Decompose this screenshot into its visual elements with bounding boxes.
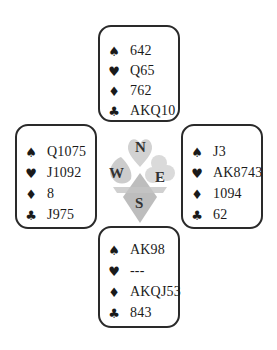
east-diamonds-row: ♦ 1094 [191,184,242,204]
west-diamonds: 8 [47,186,54,202]
club-icon: ♣ [108,104,120,119]
spade-icon: ♠ [191,145,203,160]
east-diamonds: 1094 [213,186,242,202]
north-hearts-row: ♥ Q65 [108,61,155,81]
north-hand: ♠ 642 ♥ Q65 ♦ 762 ♣ AKQ10 [98,25,180,122]
south-diamonds-row: ♦ AKQJ53 [108,282,181,302]
diamond-icon: ♦ [191,187,203,202]
compass-north-label: N [135,139,146,156]
compass-logo: N W E S [103,133,177,225]
diamond-icon: ♦ [25,187,37,202]
north-spades: 642 [130,43,152,59]
west-clubs-row: ♣ J975 [25,205,74,225]
spade-icon: ♠ [108,44,120,59]
west-hearts: J1092 [47,165,81,181]
west-hand: ♠ Q1075 ♥ J1092 ♦ 8 ♣ J975 [15,124,97,229]
south-spades: AK98 [130,242,165,258]
south-clubs-row: ♣ 843 [108,303,152,323]
east-clubs-row: ♣ 62 [191,205,227,225]
north-hearts: Q65 [130,63,155,79]
north-diamonds-row: ♦ 762 [108,81,152,101]
east-clubs: 62 [213,207,227,223]
north-clubs-row: ♣ AKQ10 [108,101,175,121]
east-spades-row: ♠ J3 [191,142,226,162]
south-diamonds: AKQJ53 [130,284,181,300]
north-clubs: AKQ10 [130,103,175,119]
west-hearts-row: ♥ J1092 [25,163,81,183]
diamond-icon: ♦ [108,285,120,300]
south-clubs: 843 [130,305,152,321]
heart-icon: ♥ [108,264,120,279]
spade-icon: ♠ [25,145,37,160]
west-diamonds-row: ♦ 8 [25,184,54,204]
east-hearts: AK8743 [213,165,262,181]
south-hand: ♠ AK98 ♥ --- ♦ AKQJ53 ♣ 843 [98,226,180,328]
heart-icon: ♥ [191,166,203,181]
west-spades: Q1075 [47,144,86,160]
north-spades-row: ♠ 642 [108,41,152,61]
north-diamonds: 762 [130,83,152,99]
east-spades: J3 [213,144,226,160]
compass-east-label: E [155,169,165,186]
club-icon: ♣ [191,208,203,223]
east-hand: ♠ J3 ♥ AK8743 ♦ 1094 ♣ 62 [181,124,263,229]
club-icon: ♣ [25,208,37,223]
south-hearts: --- [130,263,145,279]
south-spades-row: ♠ AK98 [108,240,165,260]
west-spades-row: ♠ Q1075 [25,142,86,162]
west-clubs: J975 [47,207,74,223]
compass-south-label: S [135,195,143,212]
club-icon: ♣ [108,306,120,321]
heart-icon: ♥ [25,166,37,181]
heart-icon: ♥ [108,64,120,79]
south-hearts-row: ♥ --- [108,261,145,281]
diamond-icon: ♦ [108,84,120,99]
compass-west-label: W [109,165,124,182]
spade-icon: ♠ [108,243,120,258]
east-hearts-row: ♥ AK8743 [191,163,262,183]
